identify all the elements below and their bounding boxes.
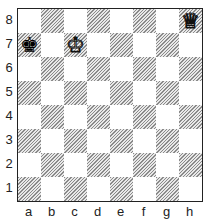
square-c7[interactable]: ♔	[64, 33, 87, 57]
square-e5[interactable]	[110, 81, 133, 105]
square-a3[interactable]	[18, 129, 41, 153]
square-c8[interactable]	[64, 9, 87, 33]
rank-label: 6	[4, 60, 14, 75]
square-h3[interactable]	[179, 129, 202, 153]
square-g1[interactable]	[156, 177, 179, 201]
square-g5[interactable]	[156, 81, 179, 105]
file-label: b	[40, 204, 63, 219]
square-a6[interactable]	[18, 57, 41, 81]
rank-label: 8	[4, 12, 14, 27]
square-d1[interactable]	[87, 177, 110, 201]
square-h6[interactable]	[179, 57, 202, 81]
square-f8[interactable]	[133, 9, 156, 33]
rank-label: 4	[4, 108, 14, 123]
rank-label: 1	[4, 180, 14, 195]
file-label: e	[109, 204, 132, 219]
square-c6[interactable]	[64, 57, 87, 81]
square-f4[interactable]	[133, 105, 156, 129]
file-label: a	[17, 204, 40, 219]
black-king-icon[interactable]: ♚	[20, 35, 39, 56]
chess-board: ♕♚♔	[17, 8, 203, 202]
square-e4[interactable]	[110, 105, 133, 129]
square-a8[interactable]	[18, 9, 41, 33]
square-e1[interactable]	[110, 177, 133, 201]
square-b4[interactable]	[41, 105, 64, 129]
square-d5[interactable]	[87, 81, 110, 105]
square-d4[interactable]	[87, 105, 110, 129]
file-label: c	[63, 204, 86, 219]
square-h1[interactable]	[179, 177, 202, 201]
square-f6[interactable]	[133, 57, 156, 81]
square-e6[interactable]	[110, 57, 133, 81]
square-c2[interactable]	[64, 153, 87, 177]
rank-label: 3	[4, 132, 14, 147]
square-d2[interactable]	[87, 153, 110, 177]
file-label: g	[155, 204, 178, 219]
square-f2[interactable]	[133, 153, 156, 177]
square-b5[interactable]	[41, 81, 64, 105]
square-d7[interactable]	[87, 33, 110, 57]
square-a4[interactable]	[18, 105, 41, 129]
white-king-icon[interactable]: ♔	[66, 35, 85, 56]
square-b6[interactable]	[41, 57, 64, 81]
square-a7[interactable]: ♚	[18, 33, 41, 57]
square-g2[interactable]	[156, 153, 179, 177]
rank-label: 5	[4, 84, 14, 99]
square-f1[interactable]	[133, 177, 156, 201]
square-f5[interactable]	[133, 81, 156, 105]
square-b1[interactable]	[41, 177, 64, 201]
square-d3[interactable]	[87, 129, 110, 153]
square-h8[interactable]: ♕	[179, 9, 202, 33]
square-g7[interactable]	[156, 33, 179, 57]
square-g4[interactable]	[156, 105, 179, 129]
square-e2[interactable]	[110, 153, 133, 177]
square-b2[interactable]	[41, 153, 64, 177]
square-c5[interactable]	[64, 81, 87, 105]
square-h5[interactable]	[179, 81, 202, 105]
square-b8[interactable]	[41, 9, 64, 33]
square-f7[interactable]	[133, 33, 156, 57]
square-c1[interactable]	[64, 177, 87, 201]
square-h2[interactable]	[179, 153, 202, 177]
file-label: d	[86, 204, 109, 219]
square-a2[interactable]	[18, 153, 41, 177]
square-e8[interactable]	[110, 9, 133, 33]
square-g6[interactable]	[156, 57, 179, 81]
square-g8[interactable]	[156, 9, 179, 33]
square-b7[interactable]	[41, 33, 64, 57]
square-h7[interactable]	[179, 33, 202, 57]
square-c3[interactable]	[64, 129, 87, 153]
square-b3[interactable]	[41, 129, 64, 153]
square-a5[interactable]	[18, 81, 41, 105]
square-c4[interactable]	[64, 105, 87, 129]
square-d8[interactable]	[87, 9, 110, 33]
square-e3[interactable]	[110, 129, 133, 153]
square-g3[interactable]	[156, 129, 179, 153]
square-d6[interactable]	[87, 57, 110, 81]
white-queen-icon[interactable]: ♕	[181, 11, 200, 32]
rank-label: 7	[4, 36, 14, 51]
square-f3[interactable]	[133, 129, 156, 153]
square-h4[interactable]	[179, 105, 202, 129]
square-e7[interactable]	[110, 33, 133, 57]
file-label: f	[132, 204, 155, 219]
file-label: h	[178, 204, 201, 219]
square-a1[interactable]	[18, 177, 41, 201]
rank-label: 2	[4, 156, 14, 171]
